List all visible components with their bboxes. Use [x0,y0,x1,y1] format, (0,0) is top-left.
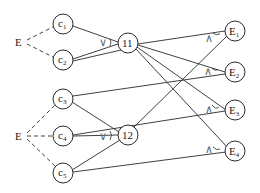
or-operator-symbol: ∨ [99,130,107,142]
source-label-bottom: E [15,130,22,142]
condition-node-c2: c2 [53,50,73,70]
effect-node-E1: E1 [225,21,245,41]
effect-node-E4: E4 [225,141,245,161]
condition-node-c1: c1 [53,14,73,34]
and-operator-symbol: ∧ [204,65,212,77]
dashed-edges [27,27,55,166]
svg-text:12: 12 [122,129,133,141]
and-operator-symbol: ∧ [205,143,213,155]
condition-node-c3: c3 [53,89,73,109]
gate-node-11: 11 [118,33,138,53]
source-label-top: E [15,36,22,48]
and-operator-symbol: ∧ [205,103,213,115]
cause-effect-graph: ∨ ∨ ∧ ∧ ∧ ∧ E E c1 c2 c3 c4 c5 11 12 E1 [0,0,260,193]
effect-node-E2: E2 [225,62,245,82]
and-operator-symbol: ∧ [205,32,213,44]
gate-node-12: 12 [118,125,138,145]
condition-node-c4: c4 [53,126,73,146]
svg-text:11: 11 [122,37,133,49]
condition-node-c5: c5 [53,163,73,183]
effect-node-E3: E3 [225,100,245,120]
or-operator-symbol: ∨ [99,36,107,48]
